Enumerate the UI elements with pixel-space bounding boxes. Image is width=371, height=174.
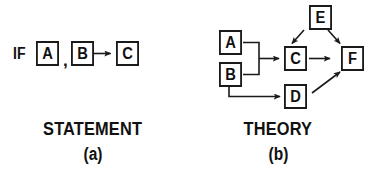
node-label-d: D <box>290 89 301 105</box>
node-label-b: B <box>225 67 236 83</box>
node-box-d: D <box>284 84 307 109</box>
node-box-c: C <box>284 46 307 71</box>
edge-e-to-c <box>292 30 304 44</box>
node-label-e: E <box>316 10 326 26</box>
edge-d-to-f <box>312 72 340 93</box>
node-box-f: F <box>341 46 364 71</box>
panel-statement: IF A , B C STATEMENT (a) <box>0 0 185 174</box>
node-box-c: C <box>116 41 139 66</box>
caption-title-statement: STATEMENT <box>0 119 185 138</box>
node-box-b: B <box>219 62 242 87</box>
edge-e-to-f <box>328 30 340 44</box>
node-label-a: A <box>225 35 236 51</box>
node-label-a: A <box>42 46 53 62</box>
edge-ab-bracket-to-c <box>243 43 279 75</box>
node-label-b: B <box>77 46 88 62</box>
caption-sub-statement: (a) <box>0 145 185 163</box>
node-box-a: A <box>219 30 242 55</box>
figure-panel-pair: IF A , B C STATEMENT (a) <box>0 0 371 174</box>
node-box-e: E <box>309 5 332 30</box>
node-label-c: C <box>290 51 301 67</box>
node-box-a: A <box>36 41 59 66</box>
panel-theory: A B C D E F THEORY (b) <box>185 0 371 174</box>
separator-comma: , <box>63 52 68 69</box>
node-label-f: F <box>348 51 357 67</box>
caption-sub-theory: (b) <box>185 145 371 163</box>
node-label-c: C <box>122 46 133 62</box>
if-label: IF <box>13 46 26 62</box>
node-box-b: B <box>71 41 94 66</box>
caption-title-theory: THEORY <box>185 119 371 138</box>
